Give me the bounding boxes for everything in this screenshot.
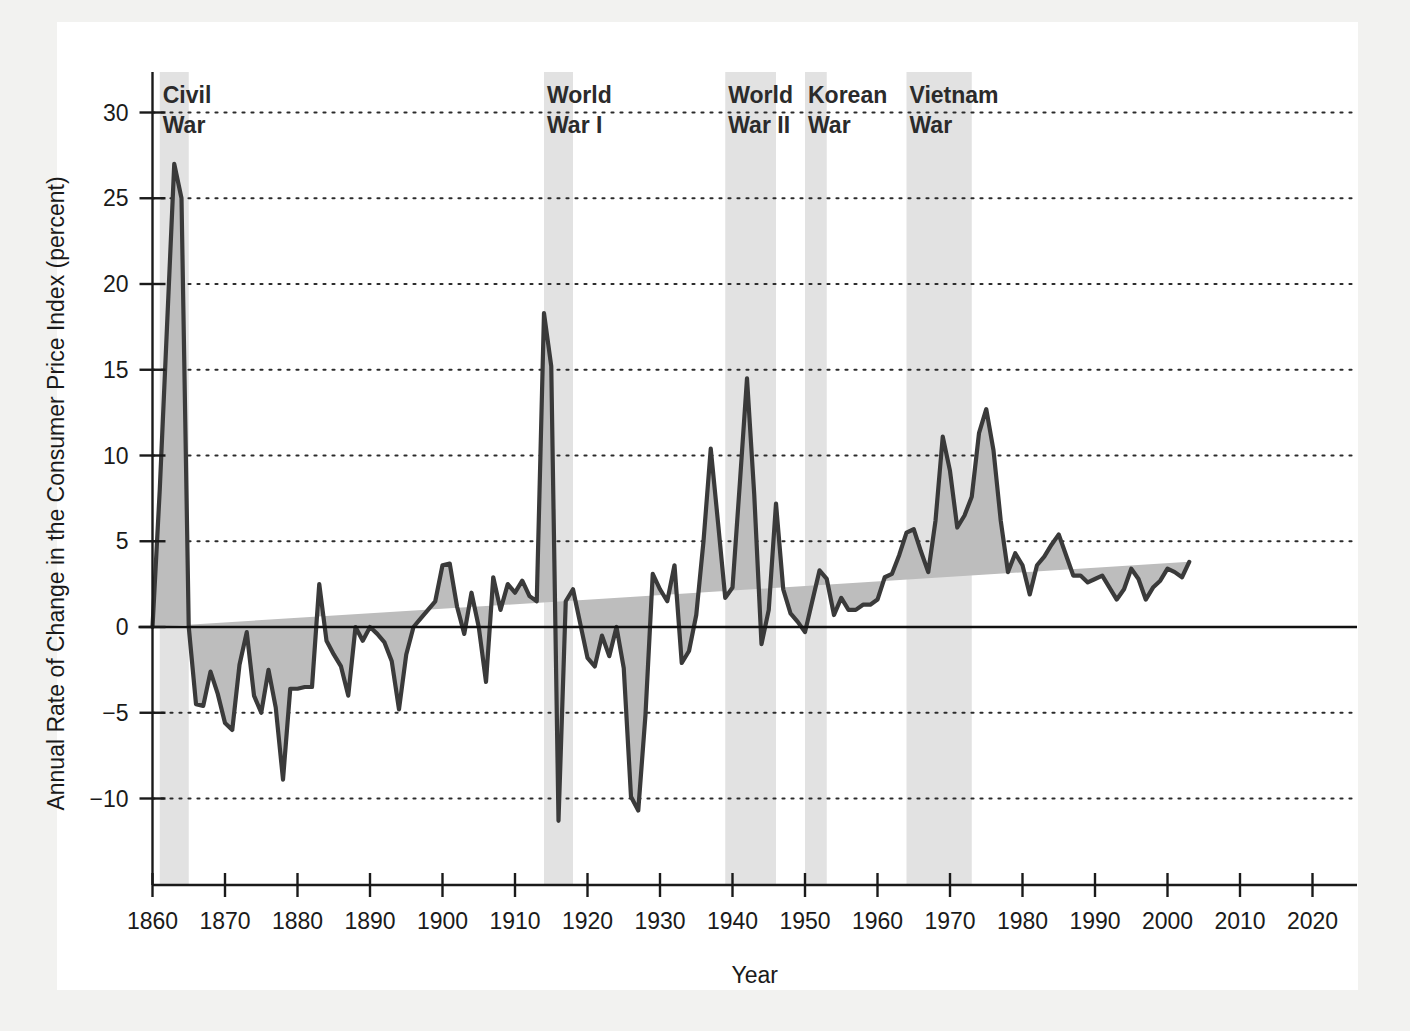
y-tick-label-30: 30 <box>103 100 129 126</box>
x-tick-label-2010: 2010 <box>1214 908 1265 934</box>
cpi-line <box>153 164 1190 821</box>
war-band-label-vietnam-war-line2: War <box>910 112 953 138</box>
x-tick-label-1900: 1900 <box>417 908 468 934</box>
war-band-label-civil-war-line1: Civil <box>163 82 212 108</box>
x-tick-label-1920: 1920 <box>562 908 613 934</box>
y-tick-label-0: 0 <box>116 614 129 640</box>
war-band-label-civil-war-line2: War <box>163 112 206 138</box>
y-tick-label-5: 5 <box>116 528 129 554</box>
x-tick-label-1960: 1960 <box>852 908 903 934</box>
cpi-inflation-chart: −10−505101520253018601870188018901900191… <box>0 0 1410 1031</box>
war-band-label-world-war-2-line1: World <box>728 82 793 108</box>
y-axis-title: Annual Rate of Change in the Consumer Pr… <box>43 176 69 810</box>
x-tick-label-1950: 1950 <box>779 908 830 934</box>
war-band-label-world-war-1-line2: War I <box>547 112 602 138</box>
y-tick-label-25: 25 <box>103 185 129 211</box>
y-tick-label-20: 20 <box>103 271 129 297</box>
war-band-label-korean-war-line2: War <box>808 112 851 138</box>
x-tick-label-1980: 1980 <box>997 908 1048 934</box>
x-axis-title: Year <box>732 962 779 988</box>
x-tick-label-1910: 1910 <box>489 908 540 934</box>
x-tick-label-1930: 1930 <box>634 908 685 934</box>
x-tick-label-1940: 1940 <box>707 908 758 934</box>
y-tick-label--5: −5 <box>102 700 128 726</box>
x-tick-label-1880: 1880 <box>272 908 323 934</box>
y-tick-label-15: 15 <box>103 357 129 383</box>
war-band-label-world-war-1-line1: World <box>547 82 612 108</box>
war-band-korean-war <box>805 72 827 885</box>
figure-page: −10−505101520253018601870188018901900191… <box>0 0 1410 1031</box>
chart-figure: −10−505101520253018601870188018901900191… <box>0 0 1410 1031</box>
x-tick-label-1860: 1860 <box>127 908 178 934</box>
x-tick-label-2020: 2020 <box>1287 908 1338 934</box>
series-layer <box>153 164 1190 821</box>
cpi-area-fill <box>153 164 1190 821</box>
x-tick-label-1890: 1890 <box>344 908 395 934</box>
war-band-label-korean-war-line1: Korean <box>808 82 887 108</box>
x-tick-label-2000: 2000 <box>1142 908 1193 934</box>
x-tick-label-1870: 1870 <box>199 908 250 934</box>
war-band-label-world-war-2-line2: War II <box>728 112 790 138</box>
y-tick-label--10: −10 <box>89 786 128 812</box>
x-tick-label-1970: 1970 <box>924 908 975 934</box>
war-band-label-vietnam-war-line1: Vietnam <box>910 82 999 108</box>
war-band-labels-layer: CivilWarWorldWar IWorldWar IIKoreanWarVi… <box>163 82 999 138</box>
x-tick-label-1990: 1990 <box>1069 908 1120 934</box>
y-tick-label-10: 10 <box>103 443 129 469</box>
